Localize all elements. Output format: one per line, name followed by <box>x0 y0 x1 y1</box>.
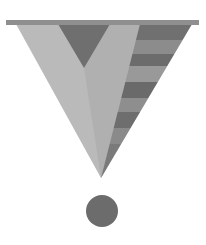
top-bar <box>6 20 199 25</box>
logo-graphic <box>0 0 206 245</box>
dot <box>86 195 118 227</box>
